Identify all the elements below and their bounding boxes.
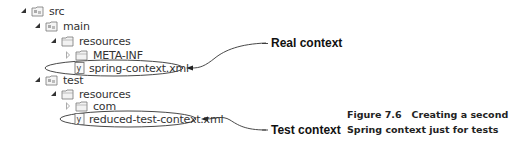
- xml-file-icon: y: [74, 113, 85, 125]
- folder-icon: [61, 35, 75, 47]
- caption-line-1: Figure 7.6 Creating a second: [347, 107, 508, 122]
- tree-item-label: com: [93, 100, 116, 113]
- tree-item-main[interactable]: main: [34, 19, 90, 33]
- source-folder-icon: [45, 20, 59, 32]
- callout-real-context: Real context: [271, 36, 342, 50]
- caption-line-2: Spring context just for tests: [347, 122, 508, 137]
- expanded-twisty-icon[interactable]: [50, 37, 58, 45]
- tree-item-label: main: [63, 20, 90, 33]
- expanded-twisty-icon[interactable]: [20, 7, 28, 15]
- tree-item-label: src: [49, 5, 64, 18]
- callout-test-context: Test context: [271, 123, 341, 137]
- collapsed-twisty-icon[interactable]: [64, 51, 72, 59]
- source-folder-icon: [45, 74, 59, 86]
- tree-item-label: reduced-test-context.xml: [89, 113, 223, 126]
- folder-icon: [75, 100, 89, 112]
- tree-item-com[interactable]: com: [64, 99, 116, 113]
- tree-item-label: test: [63, 74, 83, 87]
- tree-item-label: META-INF: [93, 49, 143, 62]
- tree-item-resources[interactable]: resources: [50, 34, 131, 48]
- expanded-twisty-icon[interactable]: [34, 22, 42, 30]
- collapsed-twisty-icon[interactable]: [64, 102, 72, 110]
- figure-caption: Figure 7.6 Creating a second Spring cont…: [347, 107, 508, 137]
- svg-text:y: y: [77, 64, 82, 73]
- tree-item-reduced-test-context[interactable]: y reduced-test-context.xml: [74, 112, 223, 126]
- tree-item-label: resources: [79, 35, 131, 48]
- arrow-real: [192, 43, 266, 68]
- expanded-twisty-icon[interactable]: [50, 90, 58, 98]
- expanded-twisty-icon[interactable]: [34, 76, 42, 84]
- tree-item-meta-inf[interactable]: META-INF: [64, 48, 143, 62]
- folder-icon: [75, 49, 89, 61]
- tree-item-src[interactable]: src: [20, 4, 64, 18]
- source-folder-icon: [31, 5, 45, 17]
- svg-text:y: y: [77, 115, 82, 124]
- tree-item-test[interactable]: test: [34, 73, 83, 87]
- tree-item-spring-context[interactable]: y spring-context.xml: [74, 61, 189, 75]
- tree-item-label: spring-context.xml: [89, 62, 189, 75]
